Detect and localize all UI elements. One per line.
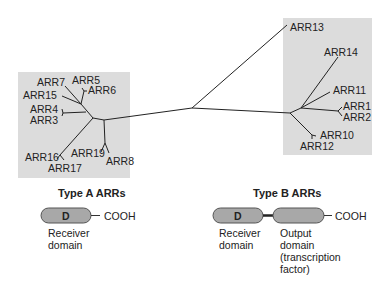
type-b-output-label-4: factor): [280, 263, 310, 275]
leaf-label-arr7: ARR7: [37, 76, 65, 88]
type-a-title: Type A ARRs: [58, 187, 126, 199]
type-b-output-domain: [273, 208, 324, 223]
type-b-receiver-label-2: domain: [219, 239, 254, 251]
type-b-output-label-1: Output: [280, 227, 312, 239]
type-a-cooh: COOH: [104, 210, 136, 222]
arr-phylogeny-diagram: ARR7 ARR5 ARR15 ARR6 ARR4 ARR3 ARR16 ARR…: [0, 0, 388, 285]
leaf-label-arr13: ARR13: [290, 21, 324, 33]
leaf-label-arr14: ARR14: [324, 46, 358, 58]
leaf-label-arr15: ARR15: [23, 89, 57, 101]
type-a-domain-letter: D: [62, 210, 70, 222]
leaf-label-arr3: ARR3: [30, 114, 58, 126]
type-a-domain-structure: D COOH Receiver domain: [41, 208, 136, 251]
type-b-output-label-3: (transcription: [280, 251, 341, 263]
leaf-label-arr8: ARR8: [106, 155, 134, 167]
type-a-receiver-label-2: domain: [48, 239, 83, 251]
leaf-label-arr11: ARR11: [333, 84, 366, 96]
leaf-label-arr12: ARR12: [300, 140, 334, 152]
type-b-receiver-label-1: Receiver: [219, 227, 261, 239]
leaf-label-arr2: ARR2: [343, 111, 371, 123]
leaf-label-arr17: ARR17: [48, 162, 82, 174]
type-b-title: Type B ARRs: [253, 187, 321, 199]
type-b-domain-letter: D: [234, 210, 242, 222]
leaf-label-arr6: ARR6: [88, 84, 116, 96]
type-a-receiver-label-1: Receiver: [48, 227, 90, 239]
type-b-output-label-2: domain: [280, 239, 315, 251]
type-b-cooh: COOH: [335, 210, 367, 222]
leaf-label-arr19: ARR19: [71, 147, 105, 159]
type-b-domain-structure: D COOH Receiver domain Output domain (tr…: [213, 208, 367, 275]
